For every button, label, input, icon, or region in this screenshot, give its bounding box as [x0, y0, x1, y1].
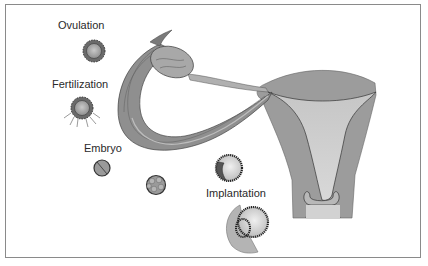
ovary	[146, 41, 268, 92]
label-embryo: Embryo	[84, 142, 122, 154]
label-ovulation: Ovulation	[58, 19, 104, 31]
reproductive-tract-illustration	[0, 0, 428, 266]
label-implantation: Implantation	[206, 187, 266, 199]
morula-embryo-icon	[147, 176, 166, 195]
label-fertilization: Fertilization	[52, 78, 108, 90]
implanting-blastocyst-icon	[226, 205, 268, 253]
blastocyst-icon	[216, 155, 242, 181]
ovulation-oocyte-icon	[83, 40, 105, 62]
uterus	[257, 70, 376, 218]
two-cell-embryo-icon	[94, 160, 110, 176]
fertilization-oocyte-icon	[64, 97, 100, 127]
